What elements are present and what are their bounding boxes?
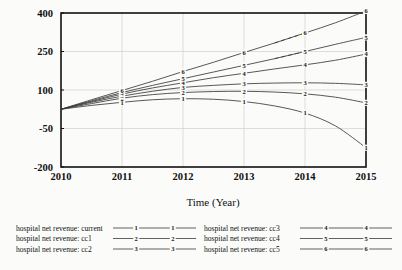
- series-marker-1: 1: [241, 98, 247, 105]
- svg-text:2: 2: [242, 88, 245, 95]
- legend-marker: 2: [135, 235, 138, 242]
- legend-marker: 1: [135, 224, 138, 231]
- series-marker-5: 5: [302, 48, 308, 55]
- series-marker-2: 2: [241, 88, 247, 95]
- series-marker-2: 2: [302, 90, 308, 97]
- series-marker-3: 3: [363, 81, 369, 88]
- series-marker-1: 1: [363, 144, 369, 151]
- series-marker-6: 6: [302, 29, 308, 36]
- y-tick-label: 400: [37, 8, 53, 19]
- legend-marker: 2: [171, 235, 174, 242]
- net-revenue-line-chart: 400250100-50-200 20102011201220132014201…: [0, 0, 402, 270]
- legend-label: hospital net revenue: cc4: [204, 234, 280, 243]
- x-axis-title: Time (Year): [186, 196, 240, 209]
- y-tick-label: 250: [37, 46, 53, 57]
- series-marker-5: 5: [180, 75, 186, 82]
- svg-text:2: 2: [364, 99, 367, 106]
- y-tick-label: 100: [37, 85, 53, 96]
- svg-text:1: 1: [303, 109, 306, 116]
- series-marker-4: 4: [363, 50, 369, 57]
- x-tick-label: 2012: [173, 171, 194, 182]
- series-marker-1: 1: [180, 95, 186, 102]
- series-marker-5: 5: [241, 62, 247, 69]
- series-marker-6: 6: [180, 68, 186, 75]
- legend-label: hospital net revenue: cc1: [16, 234, 92, 243]
- svg-text:1: 1: [181, 95, 184, 102]
- svg-text:1: 1: [364, 144, 367, 151]
- chart-legend: hospital net revenue: current11hospital …: [16, 224, 392, 254]
- x-tick-label: 2013: [234, 171, 255, 182]
- legend-label: hospital net revenue: cc3: [204, 224, 280, 233]
- series-marker-3: 3: [241, 80, 247, 87]
- legend-label: hospital net revenue: cc5: [204, 245, 280, 254]
- series-marker-6: 6: [363, 7, 369, 14]
- series-marker-4: 4: [302, 61, 308, 68]
- x-tick-label: 2015: [356, 171, 377, 182]
- legend-label: hospital net revenue: current: [16, 224, 104, 233]
- x-tick-label: 2014: [295, 171, 317, 182]
- x-tick-label: 2010: [51, 171, 72, 182]
- series-marker-4: 4: [241, 70, 247, 77]
- series-marker-3: 3: [302, 79, 308, 86]
- series-marker-5: 5: [363, 34, 369, 41]
- series-marker-6: 6: [119, 87, 125, 94]
- series-marker-6: 6: [241, 49, 247, 56]
- series-marker-2: 2: [363, 99, 369, 106]
- svg-text:2: 2: [303, 90, 306, 97]
- legend-marker: 1: [171, 224, 174, 231]
- series-marker-1: 1: [302, 109, 308, 116]
- x-tick-label: 2011: [112, 171, 132, 182]
- y-tick-label: -50: [39, 123, 53, 134]
- svg-text:1: 1: [242, 98, 245, 105]
- legend-label: hospital net revenue: cc2: [16, 245, 92, 254]
